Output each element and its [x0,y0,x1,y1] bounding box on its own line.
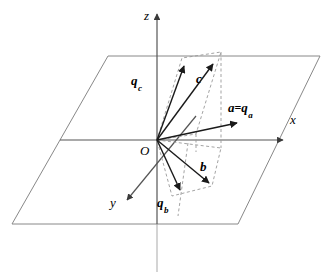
vector-diagram-figure: z x y O qc c a=qa b qb [0,0,325,277]
vector-a-label-q: q [241,100,248,115]
vector-qc-label: qc [131,74,142,91]
vector-qb [157,140,180,190]
vector-a [157,123,237,140]
vector-qb-label: qb [157,196,168,213]
x-axis-label: x [290,113,296,126]
z-axis-label: z [144,9,149,22]
vector-a-label: a=qa [228,101,252,118]
vector-qc-label-subscript: c [138,83,142,93]
vector-b-label: b [200,160,207,173]
diagram-canvas [0,0,325,277]
vector-c-label: c [196,72,202,85]
y-axis-label: y [110,196,116,209]
construction-drop-lower [178,143,188,216]
vector-qb-label-subscript: b [164,205,169,215]
vector-qc-label-base: q [131,73,138,88]
vector-qc [157,66,184,140]
vector-a-label-subscript: a [248,110,253,120]
origin-label: O [140,144,149,157]
vector-qb-label-base: q [157,195,164,210]
